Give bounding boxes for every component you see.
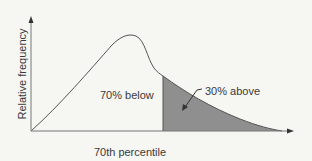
x-axis-label: 70th percentile xyxy=(94,146,166,158)
percentile-diagram: Relative frequency 70th percentile 70% b… xyxy=(0,0,312,161)
distribution-curve xyxy=(31,35,282,131)
above-region-label: 30% above xyxy=(205,85,260,97)
y-axis-arrow-icon xyxy=(29,16,34,23)
x-axis-arrow-icon xyxy=(287,129,294,134)
y-axis-label: Relative frequency xyxy=(16,28,28,119)
below-region-label: 70% below xyxy=(100,89,154,101)
diagram-svg xyxy=(0,0,312,161)
